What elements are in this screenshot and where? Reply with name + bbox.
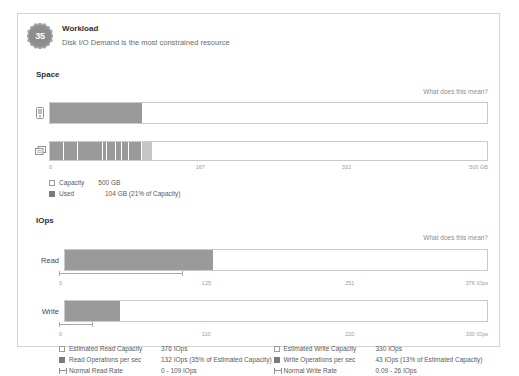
legend-item: Estimated Write Capacity 330 IOps bbox=[274, 344, 489, 354]
workload-panel: 35 Workload Disk I/O Demand is the most … bbox=[17, 13, 500, 347]
space-axis-tick: 167 bbox=[196, 164, 205, 170]
iops-write-axis: 0 110 220 330 IOps bbox=[59, 326, 488, 338]
iops-section-title: IOps bbox=[36, 216, 499, 225]
legend-swatch-outline-icon bbox=[59, 346, 65, 352]
disk-icon bbox=[31, 107, 49, 119]
space-axis-tick: 0 bbox=[49, 164, 52, 170]
iops-section: IOps What does this mean? Read 0 125 251… bbox=[18, 216, 499, 376]
iops-read-axis-tick: 125 bbox=[202, 280, 211, 286]
iops-write-axis-tick: 110 bbox=[202, 331, 211, 337]
iops-read-fill bbox=[65, 250, 213, 270]
space-usage-track bbox=[49, 102, 488, 124]
legend-swatch-range-icon bbox=[59, 368, 67, 374]
iops-write-axis-tick: 220 bbox=[345, 331, 354, 337]
legend-swatch-outline-icon bbox=[274, 346, 280, 352]
legend-label: Used bbox=[59, 189, 99, 199]
legend-swatch-solid-icon bbox=[59, 357, 65, 363]
iops-write-axis-tick: 330 IOps bbox=[466, 331, 488, 337]
header-text-block: Workload Disk I/O Demand is the most con… bbox=[62, 22, 230, 48]
legend-label: Write Operations per sec bbox=[284, 355, 370, 365]
panel-title: Workload bbox=[62, 23, 230, 34]
legend-value: 330 IOps bbox=[376, 344, 402, 354]
space-axis-tick: 332 bbox=[342, 164, 351, 170]
legend-item: Estimated Read Capacity 376 IOps bbox=[59, 344, 274, 354]
legend-swatch-outline-icon bbox=[49, 180, 55, 186]
iops-read-label: Read bbox=[23, 256, 64, 265]
space-datastore-track bbox=[49, 141, 488, 161]
iops-read-axis-tick: 251 bbox=[345, 280, 354, 286]
iops-what-does-this-mean-link[interactable]: What does this mean? bbox=[423, 234, 488, 241]
iops-write-normal-range-indicator bbox=[59, 322, 93, 327]
datastore-segment-remaining[interactable] bbox=[142, 142, 152, 160]
space-usage-bar-row bbox=[31, 102, 488, 124]
iops-read-axis-tick: 376 IOps bbox=[466, 280, 488, 286]
datastore-segment[interactable] bbox=[78, 142, 102, 160]
legend-value: 132 IOps (35% of Estimated Capacity) bbox=[161, 355, 272, 365]
legend-label: Estimated Read Capacity bbox=[69, 344, 155, 354]
legend-value: 500 GB bbox=[98, 178, 120, 188]
iops-read-normal-range-indicator bbox=[59, 271, 183, 276]
legend-value: 43 IOps (13% of Estimated Capacity) bbox=[376, 355, 483, 365]
iops-write-track bbox=[64, 300, 488, 322]
iops-write-fill bbox=[65, 301, 120, 321]
legend-item: Read Operations per sec 132 IOps (35% of… bbox=[59, 355, 274, 365]
space-section: Space What does this mean? bbox=[18, 70, 499, 199]
legend-label: Normal Read Rate bbox=[69, 366, 155, 376]
workload-score-value: 35 bbox=[27, 23, 53, 49]
datastore-icon bbox=[31, 146, 49, 156]
iops-read-axis-tick: 0 bbox=[59, 280, 62, 286]
panel-subtitle: Disk I/O Demand is the most constrained … bbox=[62, 37, 230, 48]
space-datastore-bar-row bbox=[31, 141, 488, 161]
iops-read-axis: 0 125 251 376 IOps bbox=[59, 275, 488, 287]
legend-label: Normal Write Rate bbox=[284, 366, 370, 376]
iops-read-row: Read bbox=[23, 249, 488, 271]
legend-label: Estimated Write Capacity bbox=[284, 344, 370, 354]
legend-value: 0.09 - 26 IOps bbox=[376, 366, 417, 376]
legend-item: Normal Read Rate 0 - 109 IOps bbox=[59, 366, 274, 376]
legend-value: 376 IOps bbox=[161, 344, 187, 354]
legend-item: Capacity 500 GB bbox=[49, 178, 488, 188]
iops-legend: Estimated Read Capacity 376 IOps Read Op… bbox=[59, 343, 488, 376]
datastore-segment[interactable] bbox=[64, 142, 79, 160]
iops-read-legend: Estimated Read Capacity 376 IOps Read Op… bbox=[59, 343, 274, 376]
legend-label: Read Operations per sec bbox=[69, 355, 155, 365]
legend-value: 0 - 109 IOps bbox=[161, 366, 197, 376]
legend-swatch-range-icon bbox=[274, 368, 282, 374]
panel-header: 35 Workload Disk I/O Demand is the most … bbox=[18, 14, 499, 54]
legend-item: Write Operations per sec 43 IOps (13% of… bbox=[274, 355, 489, 365]
space-legend: Capacity 500 GB Used 104 GB (21% of Capa… bbox=[49, 178, 488, 199]
space-usage-fill bbox=[50, 103, 142, 123]
space-what-does-this-mean-link[interactable]: What does this mean? bbox=[423, 88, 488, 95]
datastore-segment[interactable] bbox=[122, 142, 129, 160]
iops-write-label: Write bbox=[23, 307, 64, 316]
workload-score-badge: 35 bbox=[27, 23, 53, 49]
legend-label: Capacity bbox=[59, 178, 84, 188]
datastore-segment[interactable] bbox=[50, 142, 64, 160]
legend-swatch-solid-icon bbox=[49, 191, 55, 197]
datastore-segment[interactable] bbox=[129, 142, 142, 160]
space-axis: 0 167 332 500 GB bbox=[49, 162, 488, 174]
iops-read-track bbox=[64, 249, 488, 271]
iops-write-legend: Estimated Write Capacity 330 IOps Write … bbox=[274, 343, 489, 376]
legend-item: Normal Write Rate 0.09 - 26 IOps bbox=[274, 366, 489, 376]
iops-write-axis-tick: 0 bbox=[59, 331, 62, 337]
space-section-title: Space bbox=[36, 70, 499, 79]
legend-value: 104 GB (21% of Capacity) bbox=[105, 189, 181, 199]
legend-item: Used 104 GB (21% of Capacity) bbox=[49, 189, 488, 199]
iops-write-row: Write bbox=[23, 300, 488, 322]
space-axis-tick: 500 GB bbox=[469, 164, 488, 170]
datastore-segment[interactable] bbox=[107, 142, 115, 160]
legend-swatch-solid-icon bbox=[274, 357, 280, 363]
